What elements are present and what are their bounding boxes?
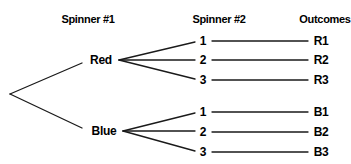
outcome-b1: B1 — [314, 106, 329, 118]
outcome-r2: R2 — [314, 54, 329, 66]
header-spinner-2: Spinner #2 — [192, 14, 245, 25]
header-outcomes: Outcomes — [299, 14, 350, 25]
node-blue: Blue — [92, 125, 117, 137]
branch-blue-1 — [123, 113, 195, 131]
node-red-1: 1 — [200, 35, 206, 47]
header-spinner-1: Spinner #1 — [61, 14, 114, 25]
node-red: Red — [90, 54, 112, 66]
outcome-b3: B3 — [314, 146, 329, 158]
branch-red-1 — [119, 42, 195, 60]
outcome-b2: B2 — [314, 126, 329, 138]
node-red-2: 2 — [200, 54, 206, 66]
node-blue-1: 1 — [200, 106, 206, 118]
branch-root-blue — [10, 94, 82, 128]
outcome-r3: R3 — [314, 74, 329, 86]
outcome-r1: R1 — [314, 35, 329, 47]
node-blue-3: 3 — [200, 146, 206, 158]
branch-red-3 — [119, 60, 195, 79]
node-red-3: 3 — [200, 74, 206, 86]
branch-root-red — [10, 63, 82, 94]
branch-blue-3 — [123, 131, 195, 151]
node-blue-2: 2 — [200, 126, 206, 138]
